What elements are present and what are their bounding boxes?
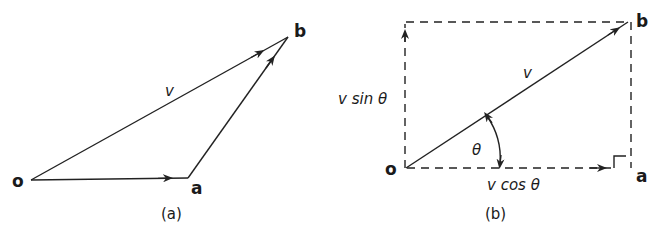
arc-arrowhead-bottom-icon <box>500 155 501 164</box>
caption-a: (a) <box>161 205 182 223</box>
arc-arrowhead-top-icon <box>487 116 492 123</box>
figure-b: o a b v θ v sin θ v cos θ (b) <box>338 11 648 223</box>
angle-label-theta: θ <box>472 141 481 159</box>
vector-diagram: o a b v (a) o a b v θ v sin θ v cos θ (b… <box>0 0 653 240</box>
arrowhead-v-icon <box>608 30 616 35</box>
point-label-a: a <box>636 166 647 186</box>
vector-ob-v <box>31 37 288 180</box>
point-label-o: o <box>385 159 397 179</box>
caption-b: (b) <box>485 205 506 223</box>
right-angle-marker-icon <box>614 156 626 168</box>
vector-label-v: v <box>523 64 533 82</box>
arrowhead-ob-icon <box>251 53 260 58</box>
vector-ab <box>188 37 288 178</box>
point-label-a: a <box>191 178 202 198</box>
point-label-b: b <box>294 21 306 41</box>
point-label-o: o <box>12 171 24 191</box>
vector-label-v: v <box>165 82 175 100</box>
label-v-sin-theta: v sin θ <box>338 90 387 108</box>
angle-arc-theta <box>487 116 500 163</box>
vector-ob-v <box>406 22 628 168</box>
point-label-b: b <box>636 11 648 31</box>
figure-a: o a b v (a) <box>12 21 306 223</box>
label-v-cos-theta: v cos θ <box>487 176 540 194</box>
arrowhead-ab-icon <box>266 60 272 69</box>
